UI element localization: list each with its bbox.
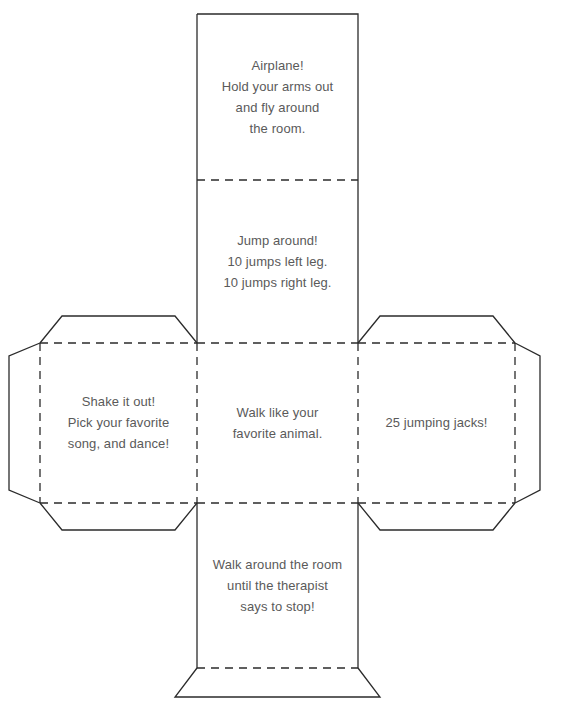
panel-upper-middle-line: Jump around! xyxy=(237,233,318,248)
panel-center-line: favorite animal. xyxy=(233,426,323,441)
panel-right-line: 25 jumping jacks! xyxy=(385,415,487,430)
panel-top-line: Hold your arms out xyxy=(222,79,334,94)
panel-bottom-line: Walk around the room xyxy=(213,557,342,572)
panel-left-line: Pick your favorite xyxy=(68,415,170,430)
panel-upper-middle-line: 10 jumps right leg. xyxy=(223,275,331,290)
panel-upper-middle-text: Jump around!10 jumps left leg.10 jumps r… xyxy=(223,233,331,290)
panel-upper-middle-line: 10 jumps left leg. xyxy=(227,254,327,269)
panel-center-face xyxy=(197,343,358,503)
panel-top-face xyxy=(197,14,358,180)
panel-bottom-line: until the therapist xyxy=(227,578,328,593)
panel-bottom-line: says to stop! xyxy=(240,599,314,614)
cube-net-canvas: Airplane!Hold your arms outand fly aroun… xyxy=(0,0,565,718)
panel-top-line: the room. xyxy=(250,121,306,136)
panel-left-text: Shake it out!Pick your favoritesong, and… xyxy=(68,394,170,451)
panel-left-line: Shake it out! xyxy=(82,394,156,409)
cube-net-svg: Airplane!Hold your arms outand fly aroun… xyxy=(0,0,565,718)
panel-left-line: song, and dance! xyxy=(68,436,169,451)
panel-top-line: and fly around xyxy=(236,100,320,115)
panel-top-line: Airplane! xyxy=(251,58,303,73)
panel-right-text: 25 jumping jacks! xyxy=(385,415,487,430)
panel-center-line: Walk like your xyxy=(237,405,319,420)
